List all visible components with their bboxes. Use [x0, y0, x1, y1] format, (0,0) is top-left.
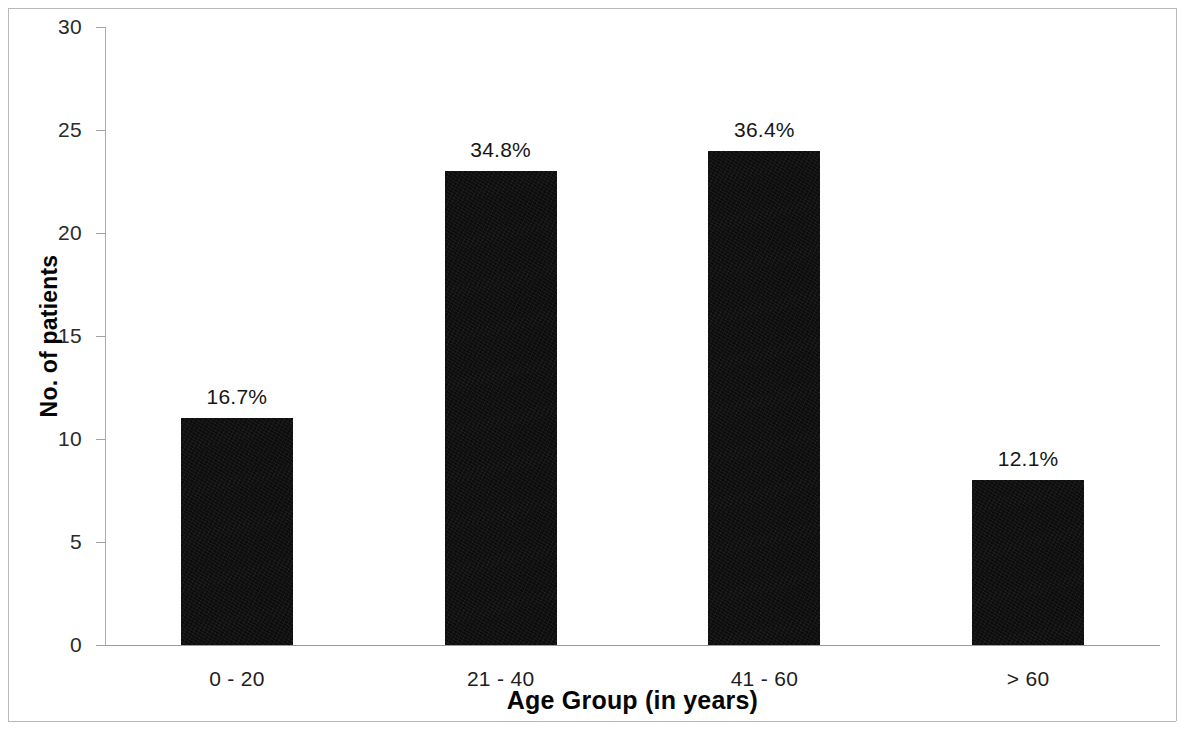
x-axis-title: Age Group (in years): [105, 686, 1160, 715]
figure-border-top: [8, 8, 1176, 9]
figure-border-left: [8, 8, 9, 721]
bar[interactable]: [181, 418, 293, 645]
plot-area: 051015202530 16.7%34.8%36.4%12.1% 0 - 20…: [105, 27, 1160, 645]
y-axis-tick: 30: [96, 27, 105, 28]
y-axis-tick: 0: [96, 645, 105, 646]
figure-border-right: [1176, 8, 1177, 721]
bar[interactable]: [708, 151, 820, 645]
bar-value-label: 36.4%: [734, 118, 795, 142]
y-axis-tick: 25: [96, 130, 105, 131]
y-axis-line: [105, 27, 106, 645]
y-axis-tick: 10: [96, 439, 105, 440]
bar-value-label: 34.8%: [470, 138, 531, 162]
y-axis-tick: 15: [96, 336, 105, 337]
y-axis-tick: 5: [96, 542, 105, 543]
bar[interactable]: [972, 480, 1084, 645]
figure-border-bottom: [8, 721, 1176, 722]
y-axis-tick: 20: [96, 233, 105, 234]
y-axis-title: No. of patients: [26, 27, 72, 645]
bar-value-label: 16.7%: [207, 385, 268, 409]
bar[interactable]: [445, 171, 557, 645]
x-axis-line: [105, 645, 1160, 646]
bar-value-label: 12.1%: [998, 447, 1059, 471]
bar-chart-figure: 051015202530 16.7%34.8%36.4%12.1% 0 - 20…: [0, 0, 1181, 731]
